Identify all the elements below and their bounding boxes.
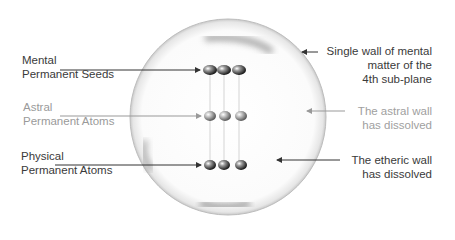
label-line: Single wall of mental bbox=[292, 44, 432, 58]
label-astral-atoms: Astral Permanent Atoms bbox=[23, 100, 114, 128]
label-astral-wall: The astral wall has dissolved bbox=[312, 104, 432, 132]
label-line: The etheric wall bbox=[312, 153, 432, 167]
label-line: The astral wall bbox=[312, 104, 432, 118]
label-mental-wall: Single wall of mental matter of the 4th … bbox=[292, 44, 432, 86]
label-line: Permanent Seeds bbox=[22, 67, 114, 81]
astral-permanent-atoms bbox=[204, 111, 247, 121]
label-line: 4th sub-plane bbox=[292, 72, 432, 86]
label-line: Astral bbox=[23, 100, 114, 114]
label-line: Mental bbox=[22, 53, 114, 67]
label-line: matter of the bbox=[292, 58, 432, 72]
label-line: Physical bbox=[21, 149, 112, 163]
physical-permanent-atoms bbox=[204, 160, 247, 170]
label-mental-seeds: Mental Permanent Seeds bbox=[22, 53, 114, 81]
label-line: has dissolved bbox=[312, 118, 432, 132]
label-line: has dissolved bbox=[312, 167, 432, 181]
mental-permanent-seeds bbox=[203, 65, 246, 75]
label-etheric-wall: The etheric wall has dissolved bbox=[312, 153, 432, 181]
label-line: Permanent Atoms bbox=[21, 163, 112, 177]
label-physical-atoms: Physical Permanent Atoms bbox=[21, 149, 112, 177]
label-line: Permanent Atoms bbox=[23, 114, 114, 128]
